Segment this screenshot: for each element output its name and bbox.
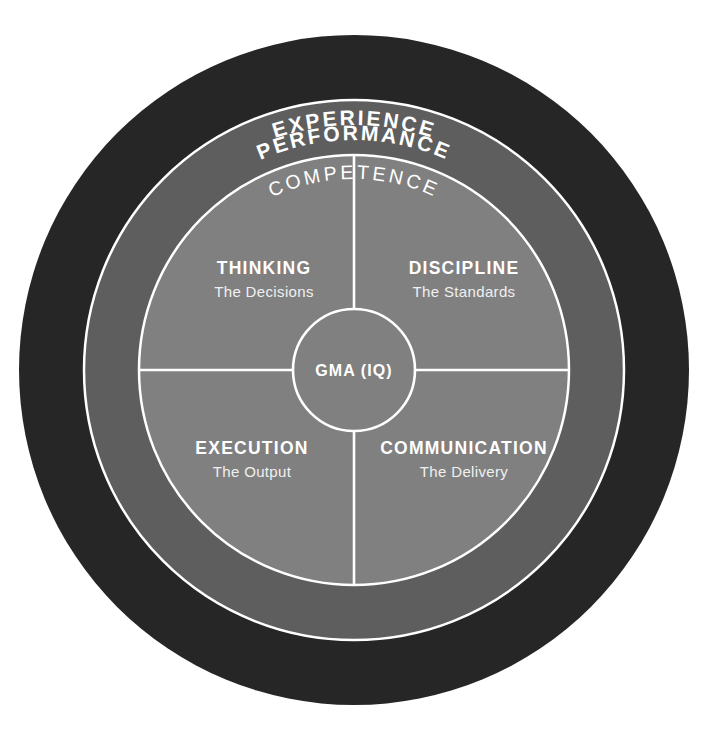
quadrant-title-execution: EXECUTION	[195, 438, 308, 458]
gma-core-label: GMA (IQ)	[315, 362, 393, 379]
quadrant-subtitle-execution: The Output	[213, 463, 292, 480]
quadrant-title-thinking: THINKING	[217, 258, 312, 278]
quadrant-title-discipline: DISCIPLINE	[409, 258, 520, 278]
quadrant-subtitle-communication: The Delivery	[420, 463, 509, 480]
quadrant-title-communication: COMMUNICATION	[380, 438, 548, 458]
quadrant-subtitle-thinking: The Decisions	[214, 283, 314, 300]
diagram-root: EXPERIENCE PERFORMANCE COMPETENCE THINKI…	[0, 0, 709, 741]
quadrant-subtitle-discipline: The Standards	[413, 283, 516, 300]
competence-model-diagram: EXPERIENCE PERFORMANCE COMPETENCE THINKI…	[0, 0, 709, 741]
